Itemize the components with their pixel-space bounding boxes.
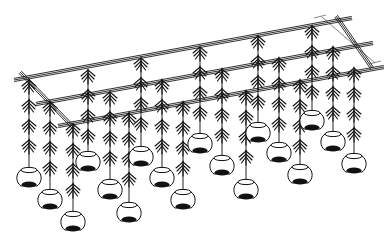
hanging-strand	[61, 123, 85, 232]
sprig-icon	[215, 128, 229, 143]
rail-frame	[14, 15, 384, 129]
sprig-icon	[66, 183, 80, 198]
pot-icon	[150, 167, 174, 187]
sprig-icon	[326, 106, 340, 121]
hanging-strand	[129, 57, 153, 167]
sprig-icon	[293, 139, 307, 154]
sprig-icon	[176, 121, 190, 136]
sprig-icon	[66, 123, 80, 138]
sprig-icon	[43, 121, 57, 136]
pot-icon	[342, 153, 366, 173]
sprig-icon	[155, 139, 169, 154]
pot-icon	[61, 211, 85, 231]
sprig-icon	[215, 108, 229, 123]
sprig-icon	[22, 99, 36, 114]
sprig-icon	[272, 117, 286, 132]
pot-icon	[171, 189, 195, 209]
pot-icon	[300, 110, 324, 130]
sprig-icon	[43, 161, 57, 176]
sprig-icon	[134, 97, 148, 112]
sprig-icon	[305, 85, 319, 100]
hanging-strand	[188, 46, 212, 154]
hanging-strand	[171, 101, 195, 210]
sprig-icon	[155, 79, 169, 94]
sprig-icon	[239, 110, 253, 125]
hanging-strand	[342, 67, 366, 174]
sprig-icon	[103, 111, 117, 126]
sprig-icon	[251, 75, 265, 90]
pot-icon	[129, 146, 153, 166]
sprig-icon	[176, 101, 190, 116]
sprig-icon	[347, 107, 361, 122]
sprig-icon	[239, 90, 253, 105]
sprig-icon	[305, 45, 319, 60]
hanging-strand	[150, 79, 174, 188]
pot-icon	[210, 155, 234, 175]
pot-icon	[267, 142, 291, 162]
sprig-icon	[22, 139, 36, 154]
hanging-strand	[321, 46, 345, 152]
pot-icon	[246, 122, 270, 142]
hanging-strands	[17, 25, 366, 232]
sprig-icon	[81, 109, 95, 124]
sprig-icon	[122, 172, 136, 187]
pot-icon	[38, 189, 62, 209]
sprig-icon	[305, 25, 319, 40]
sprig-icon	[43, 141, 57, 156]
sprig-icon	[22, 119, 36, 134]
pot-icon	[98, 179, 122, 199]
hanging-strand	[246, 35, 270, 143]
sprig-icon	[81, 69, 95, 84]
pot-icon	[76, 151, 100, 171]
diagram-canvas: ~	[0, 0, 384, 234]
sprig-icon	[193, 106, 207, 121]
sprig-icon	[103, 151, 117, 166]
hanging-strand	[210, 68, 234, 176]
sprig-icon	[272, 77, 286, 92]
dimension-line: ~	[314, 15, 381, 64]
sprig-icon	[347, 127, 361, 142]
sprig-icon	[326, 46, 340, 61]
sprig-icon	[305, 65, 319, 80]
pot-icon	[117, 202, 141, 222]
pot-icon	[288, 164, 312, 184]
hanging-strand	[300, 25, 324, 131]
sprig-icon	[81, 89, 95, 104]
hanging-strand	[17, 79, 41, 188]
back-rail	[14, 16, 353, 81]
sprig-icon	[193, 86, 207, 101]
sprig-icon	[347, 87, 361, 102]
sprig-icon	[176, 161, 190, 176]
sprig-icon	[81, 129, 95, 144]
pot-icon	[17, 167, 41, 187]
sprig-icon	[251, 35, 265, 50]
sprig-icon	[155, 119, 169, 134]
sprig-icon	[122, 132, 136, 147]
hanging-strand	[98, 91, 122, 200]
hanging-strand	[288, 79, 312, 185]
sprig-icon	[326, 86, 340, 101]
pot-icon	[234, 179, 258, 199]
hanging-strand	[38, 101, 62, 210]
pot-icon	[321, 131, 345, 151]
sprig-icon	[215, 68, 229, 83]
sprig-icon	[272, 97, 286, 112]
sprig-icon	[239, 150, 253, 165]
hanging-pots-drawing: ~	[0, 0, 384, 234]
sprig-icon	[103, 131, 117, 146]
hanging-strand	[267, 57, 291, 163]
pot-icon	[188, 133, 212, 153]
